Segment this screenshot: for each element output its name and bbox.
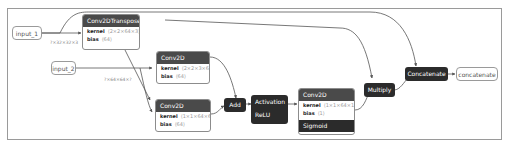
node-add[interactable]: Add <box>224 98 246 112</box>
node-conv2d-a[interactable]: Conv2D kernel⟨2×2×3×64⟩ bias⟨64⟩ <box>156 51 210 84</box>
attr-value: ⟨1×1×64×64⟩ <box>181 113 211 119</box>
output-node-concatenate[interactable]: concatenate <box>456 67 498 81</box>
attr-value: ⟨1⟩ <box>318 110 325 116</box>
node-title: Activation <box>251 95 288 108</box>
attr-name: bias <box>161 73 173 79</box>
node-title: Conv2D <box>156 100 210 112</box>
attr-kernel: kernel⟨2×2×3×64⟩ <box>157 64 209 72</box>
attr-kernel: kernel⟨1×1×64×1⟩ <box>299 101 354 109</box>
node-activation[interactable]: Activation ReLU <box>251 95 288 124</box>
node-title: Conv2DTranspose <box>83 15 139 27</box>
edge-conva-add <box>210 57 236 98</box>
attr-name: bias <box>160 121 172 127</box>
attr-name: kernel <box>160 113 178 119</box>
input-node-input2[interactable]: input_2 <box>51 61 76 75</box>
attr-value: ⟨2×2×3×64⟩ <box>182 65 210 71</box>
attr-kernel: kernel⟨1×1×64×64⟩ <box>156 112 210 120</box>
node-title: Add <box>224 98 246 111</box>
attr-value: ⟨1×1×64×1⟩ <box>324 102 355 108</box>
attr-name: kernel <box>161 65 179 71</box>
attr-bias: bias⟨1⟩ <box>299 109 354 117</box>
attr-value: ⟨64⟩ <box>175 121 185 127</box>
attr-value: ⟨64⟩ <box>176 73 186 79</box>
node-subtitle: ReLU <box>251 108 288 121</box>
node-title: Conv2D <box>157 52 209 64</box>
attr-bias: bias⟨64⟩ <box>83 35 139 43</box>
shape-label-input1: ?×32×32×3 <box>50 40 78 45</box>
edge-convb-add <box>211 106 224 114</box>
node-title: Multiply <box>364 83 395 96</box>
node-concatenate[interactable]: Concatenate <box>405 67 448 81</box>
node-title: Concatenate <box>405 67 448 80</box>
attr-name: kernel <box>87 28 105 34</box>
node-title: Conv2D <box>299 89 354 101</box>
attr-bias: bias⟨64⟩ <box>157 72 209 80</box>
node-conv2d-b[interactable]: Conv2D kernel⟨1×1×64×64⟩ bias⟨64⟩ <box>155 99 211 132</box>
attr-value: ⟨64⟩ <box>102 36 112 42</box>
node-activation-sigmoid: Sigmoid <box>299 120 354 132</box>
attr-name: bias <box>303 110 315 116</box>
attr-name: bias <box>87 36 99 42</box>
input-node-input1[interactable]: input_1 <box>12 26 42 40</box>
attr-kernel: kernel⟨2×2×64×3⟩ <box>83 27 139 35</box>
node-conv2d-c[interactable]: Conv2D kernel⟨1×1×64×1⟩ bias⟨1⟩ Sigmoid <box>298 88 355 135</box>
shape-label-input2: ?×64×64×? <box>104 77 132 82</box>
attr-value: ⟨2×2×64×3⟩ <box>108 28 140 34</box>
node-multiply[interactable]: Multiply <box>364 83 395 97</box>
edge-convtranspose-convb <box>125 50 150 100</box>
attr-bias: bias⟨64⟩ <box>156 120 210 128</box>
edge-input2-convb <box>140 68 152 112</box>
node-conv2dtranspose[interactable]: Conv2DTranspose kernel⟨2×2×64×3⟩ bias⟨64… <box>82 14 140 50</box>
attr-name: kernel <box>303 102 321 108</box>
